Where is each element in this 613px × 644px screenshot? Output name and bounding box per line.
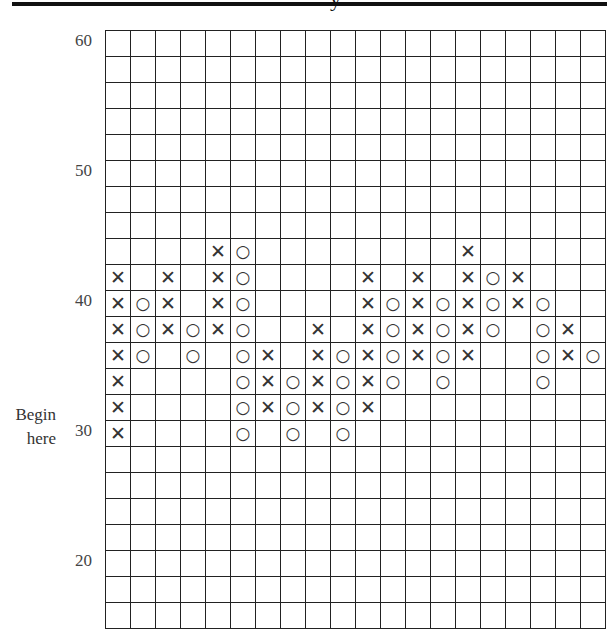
grid-cell: ○: [230, 316, 255, 342]
grid-cell: [230, 524, 255, 550]
grid-cell: [480, 550, 505, 576]
grid-cell: ○: [480, 316, 505, 342]
grid-cell: [505, 30, 530, 56]
grid-cell: [180, 82, 205, 108]
grid-cell: ✕: [405, 342, 430, 368]
grid-cell: [580, 160, 605, 186]
grid-cell: [155, 108, 180, 134]
grid-cell: [355, 238, 380, 264]
grid-cell: [555, 82, 580, 108]
grid-cell: [555, 524, 580, 550]
o-mark-icon: ○: [436, 295, 451, 312]
grid-cell: [155, 56, 180, 82]
grid-cell: [280, 472, 305, 498]
grid-cell: ○: [430, 368, 455, 394]
grid-cell: [505, 316, 530, 342]
grid-cell: [455, 394, 480, 420]
grid-cell: [580, 394, 605, 420]
grid-cell: [205, 134, 230, 160]
grid-cell: [380, 446, 405, 472]
grid-cell: [555, 602, 580, 628]
grid-cell: [380, 30, 405, 56]
grid-cell: ○: [530, 316, 555, 342]
grid-cell: [180, 368, 205, 394]
grid-cell: [155, 368, 180, 394]
grid-cell: [505, 186, 530, 212]
grid-cell: [330, 212, 355, 238]
grid-cell: [455, 524, 480, 550]
grid-cell: [580, 56, 605, 82]
grid-cell: [480, 394, 505, 420]
grid-cell: [205, 56, 230, 82]
grid-cell: [280, 498, 305, 524]
grid-cell: [305, 238, 330, 264]
grid-cell: [380, 420, 405, 446]
grid-cell: [430, 108, 455, 134]
grid-cell: [555, 264, 580, 290]
grid-cell: [255, 212, 280, 238]
x-mark-icon: ✕: [460, 346, 476, 365]
grid-cell: [505, 576, 530, 602]
grid-cell: ✕: [355, 342, 380, 368]
grid-cell: ✕: [155, 290, 180, 316]
y-tick-50: 50: [52, 161, 92, 181]
grid-cell: [580, 446, 605, 472]
o-mark-icon: ○: [386, 347, 401, 364]
grid-cell: [105, 524, 130, 550]
grid-cell: [480, 472, 505, 498]
grid-cell: [155, 342, 180, 368]
grid-cell: [430, 602, 455, 628]
grid-cell: [555, 550, 580, 576]
o-mark-icon: ○: [236, 373, 251, 390]
grid-cell: [280, 186, 305, 212]
grid-cell: [230, 602, 255, 628]
grid-cell: [530, 550, 555, 576]
x-mark-icon: ✕: [510, 268, 526, 287]
grid-cell: [555, 472, 580, 498]
grid-cell: [580, 212, 605, 238]
grid-cell: [530, 394, 555, 420]
o-mark-icon: ○: [586, 347, 601, 364]
grid-cell: [130, 264, 155, 290]
grid-cell: [230, 134, 255, 160]
grid-cell: [305, 550, 330, 576]
grid-cell: [355, 186, 380, 212]
grid-cell: [480, 30, 505, 56]
x-mark-icon: ✕: [360, 346, 376, 365]
grid-cell: ✕: [155, 264, 180, 290]
o-mark-icon: ○: [286, 373, 301, 390]
grid-cell: ✕: [355, 394, 380, 420]
x-mark-icon: ✕: [110, 424, 126, 443]
grid-cell: [255, 290, 280, 316]
grid-cell: ○: [130, 316, 155, 342]
grid-cell: [555, 56, 580, 82]
grid-cell: [505, 212, 530, 238]
grid-cell: [180, 576, 205, 602]
grid-cell: [105, 212, 130, 238]
grid-cell: ✕: [105, 264, 130, 290]
grid-cell: ✕: [205, 316, 230, 342]
grid-cell: [230, 30, 255, 56]
grid-cell: ✕: [305, 342, 330, 368]
grid-cell: [205, 498, 230, 524]
grid-cell: [255, 160, 280, 186]
grid-cell: [280, 446, 305, 472]
grid-cell: [330, 472, 355, 498]
grid-cell: [580, 420, 605, 446]
grid-cell: [230, 82, 255, 108]
grid-cell: ✕: [305, 394, 330, 420]
grid-cell: [205, 160, 230, 186]
grid-cell: [455, 472, 480, 498]
grid-cell: [505, 394, 530, 420]
grid-cell: ✕: [505, 264, 530, 290]
grid-cell: [580, 498, 605, 524]
grid-cell: [205, 394, 230, 420]
grid-cell: ○: [230, 368, 255, 394]
grid-cell: [480, 420, 505, 446]
grid-cell: [255, 186, 280, 212]
grid-cell: [505, 602, 530, 628]
here-label: here: [0, 427, 56, 451]
grid-cell: [180, 524, 205, 550]
grid-cell: [405, 472, 430, 498]
grid-cell: [130, 446, 155, 472]
